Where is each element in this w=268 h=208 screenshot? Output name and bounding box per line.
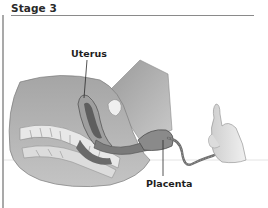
anatomical-illustration: [0, 0, 268, 208]
hand-shape: [211, 104, 246, 163]
placenta-label: Placenta: [146, 178, 192, 189]
uterus-label: Uterus: [71, 48, 107, 59]
